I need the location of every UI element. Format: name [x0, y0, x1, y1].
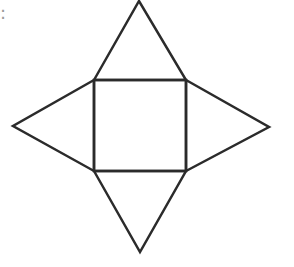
triangle-bottom: [94, 171, 186, 252]
triangle-top: [94, 1, 186, 80]
square-base: [94, 80, 186, 171]
pyramid-net-diagram: [0, 0, 294, 267]
triangle-left: [13, 80, 94, 171]
triangle-right: [186, 80, 269, 171]
